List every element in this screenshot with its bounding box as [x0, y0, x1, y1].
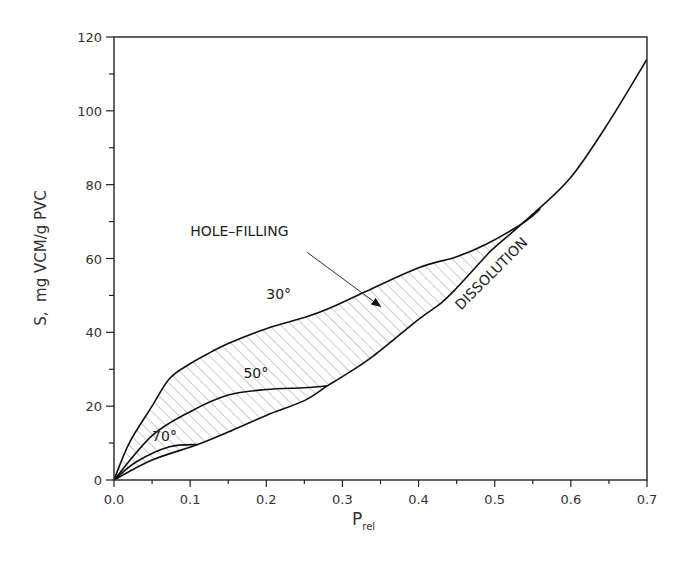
- x-axis-label-main: P: [352, 509, 362, 529]
- y-tick-label: 60: [85, 252, 102, 267]
- x-tick-label: 0.6: [561, 492, 582, 507]
- annotation-30: 30°: [266, 286, 291, 302]
- annotation-holefilling: HOLE–FILLING: [190, 223, 288, 239]
- y-tick-label: 20: [85, 399, 102, 414]
- y-tick-label: 0: [94, 473, 102, 488]
- x-tick-label: 0.3: [332, 492, 353, 507]
- y-tick-label: 100: [77, 104, 102, 119]
- x-axis-label-subscript: rel: [362, 521, 375, 532]
- annotation-50: 50°: [243, 365, 268, 381]
- y-tick-label: 120: [77, 30, 102, 45]
- annotation-arrow: [307, 252, 380, 306]
- x-tick-label: 0.4: [408, 492, 429, 507]
- y-tick-label: 80: [85, 178, 102, 193]
- chart-canvas: 0.00.10.20.30.40.50.60.7 020406080100120…: [0, 0, 693, 568]
- x-tick-label: 0.2: [256, 492, 277, 507]
- annotation-70: 70°: [152, 428, 177, 444]
- y-axis: 020406080100120: [77, 30, 114, 488]
- x-axis-label: Prel: [352, 509, 375, 532]
- x-tick-label: 0.0: [104, 492, 125, 507]
- x-tick-label: 0.1: [180, 492, 201, 507]
- y-tick-label: 40: [85, 325, 102, 340]
- x-axis: 0.00.10.20.30.40.50.60.7: [104, 480, 658, 507]
- x-tick-label: 0.7: [637, 492, 658, 507]
- x-tick-label: 0.5: [484, 492, 505, 507]
- y-axis-label: S, mg VCM/g PVC: [32, 190, 50, 326]
